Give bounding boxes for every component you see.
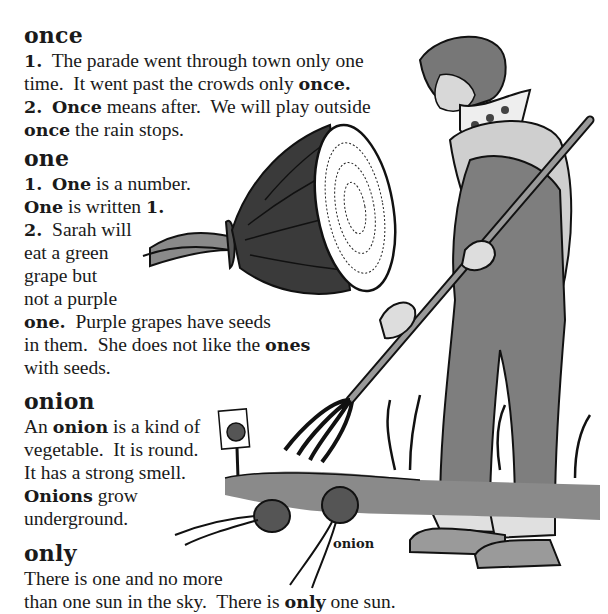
headword-one: one [24, 145, 69, 171]
definition-line: One is written 1. [24, 195, 164, 219]
definition-line: with seeds. [24, 356, 111, 379]
definition-line: eat a green [24, 241, 108, 264]
definition-line: 1. One is a number. [24, 172, 191, 196]
definition-line: underground. [24, 507, 128, 530]
definition-line: Onions grow [24, 484, 138, 508]
definition-line: 2. Once means after. We will play outsid… [24, 95, 371, 119]
headword-onion: onion [24, 388, 95, 414]
headword-only: only [24, 540, 77, 566]
definition-line: in them. She does not like the ones [24, 333, 310, 357]
definition-line: It has a strong smell. [24, 461, 186, 484]
definition-line: once the rain stops. [24, 118, 184, 142]
definition-line: not a purple [24, 287, 117, 310]
definition-line: An onion is a kind of [24, 415, 200, 439]
headword-once: once [24, 22, 83, 48]
definition-line: one. Purple grapes have seeds [24, 310, 271, 334]
definition-line: than one sun in the sky. There is only o… [24, 590, 396, 614]
definition-line: grape but [24, 264, 97, 287]
definition-line: 2. Sarah will [24, 218, 132, 242]
definition-line: 1. The parade went through town only one [24, 49, 364, 73]
definition-line: vegetable. It is round. [24, 438, 198, 461]
definition-line: There is one and no more [24, 567, 223, 590]
illustration-caption: onion [333, 536, 374, 551]
definition-line: time. It went past the crowds only once. [24, 72, 351, 96]
halved-onion-icon [143, 119, 407, 298]
